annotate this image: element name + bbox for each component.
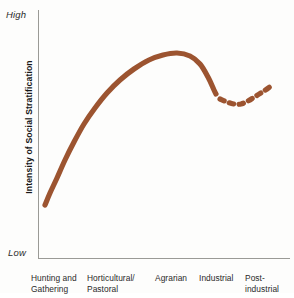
x-axis-line [38,258,290,259]
x-axis-label-horticultural-pastoral: Horticultural/ Pastoral [87,262,135,298]
x-axis-labels: Hunting and Gathering Horticultural/ Pas… [0,262,294,293]
x-axis-label-line2: Pastoral [87,284,135,295]
x-axis-label-post-industrial: Post- industrial [245,262,279,298]
x-axis-label-line2: Gathering [31,284,77,295]
y-axis-low-label: Low [8,247,26,258]
y-axis-high-label: High [6,9,26,20]
x-axis-label-line1: Industrial [199,273,233,283]
y-axis-line [38,10,39,259]
x-axis-label-agrarian: Agrarian [155,262,187,295]
x-axis-label-line1: Hunting and [31,273,77,283]
x-axis-label-line2: industrial [245,284,279,295]
x-axis-label-line1: Post- [245,273,265,283]
x-axis-label-hunting-and-gathering: Hunting and Gathering [31,262,77,298]
y-axis-title: Intensity of Social Stratification [24,47,34,207]
x-axis-label-industrial: Industrial [199,262,233,295]
x-axis-label-line1: Agrarian [155,273,187,283]
trend-curve-dashed [220,86,271,104]
x-axis-label-line1: Horticultural/ [87,273,135,283]
trend-curve-solid [45,53,216,205]
